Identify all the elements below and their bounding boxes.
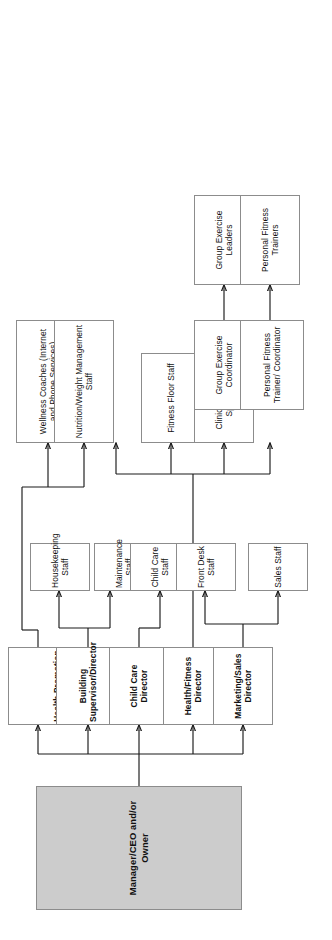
node-label: Front Desk Staff (196, 546, 217, 588)
org-chart-canvas: Manager/CEO and/or Owner Health Promotio… (0, 0, 332, 940)
node-label: Sales Staff (273, 546, 284, 588)
node-label: Nutrition/Weight Management Staff (74, 323, 95, 440)
node-label: Child Care Staff (150, 546, 171, 588)
node-personal-fitness-trainer-coordinator[interactable]: Personal Fitness Trainer/ Coordinator (240, 320, 304, 410)
node-label: Housekeeping Staff (50, 546, 71, 588)
node-front-desk-staff[interactable]: Front Desk Staff (176, 543, 236, 591)
node-housekeeping-staff[interactable]: Housekeeping Staff (30, 543, 90, 591)
node-label: Group Exercise Leaders (214, 198, 235, 282)
node-label: Marketing/Sales Director (233, 650, 254, 722)
node-nutrition-weight-management-staff[interactable]: Nutrition/Weight Management Staff (54, 320, 114, 443)
node-root-label: Manager/CEO and/or Owner (127, 789, 151, 907)
node-label: Child Care Director (129, 650, 150, 722)
node-label: Health/Fitness Director (183, 650, 204, 722)
node-child-care-director[interactable]: Child Care Director (109, 647, 169, 725)
node-personal-fitness-trainers[interactable]: Personal Fitness Trainers (240, 195, 300, 285)
node-label: Personal Fitness Trainer/ Coordinator (262, 323, 283, 407)
node-label: Building Supervisor/Director (78, 650, 99, 722)
node-root[interactable]: Manager/CEO and/or Owner (36, 786, 242, 910)
node-label: Group Exercise Coordinator (214, 323, 235, 407)
node-sales-staff[interactable]: Sales Staff (248, 543, 308, 591)
node-fitness-floor-staff[interactable]: Fitness Floor Staff (141, 353, 201, 443)
node-marketing-sales-director[interactable]: Marketing/Sales Director (213, 647, 273, 725)
node-label: Personal Fitness Trainers (260, 198, 281, 282)
node-label: Fitness Floor Staff (166, 356, 177, 440)
